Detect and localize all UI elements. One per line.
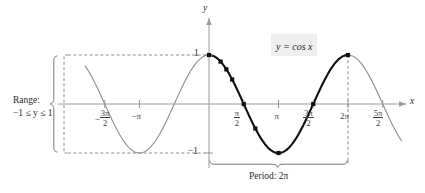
x-tick-label-5: 2π [340,112,349,121]
range-annotation: Range: −1 ≤ y ≤ 1 [13,94,53,120]
range-annotation-line1: Range: [13,94,53,107]
data-point-6 [276,151,280,155]
period-annotation: Period: 2π [249,172,288,182]
data-point-8 [346,53,350,57]
y-axis-label: y [203,4,207,14]
data-point-3 [230,77,234,81]
x-tick-numerator-6: 5π [373,109,384,119]
data-point-0 [207,53,211,57]
x-tick-numerator-0: 3π [100,109,111,119]
cosine-graph-figure: y x 1 −1 −3π2−ππ2π3π22π5π2 y = cos x Ran… [0,0,425,193]
data-point-2 [224,67,228,71]
x-axis-label: x [410,97,414,107]
y-tick-label-neg1: −1 [188,147,198,157]
x-tick-denominator-2: 2 [235,118,239,127]
equation-callout: y = cos x [271,34,317,56]
range-annotation-line2: −1 ≤ y ≤ 1 [13,107,53,120]
x-tick-denominator-0: 2 [103,118,107,127]
x-tick-denominator-4: 2 [306,118,310,127]
axes [58,18,406,168]
y-axis-arrowhead [206,18,211,25]
x-tick-label-6: 5π2 [373,110,384,129]
plot-canvas [0,0,425,193]
data-point-4 [242,102,246,106]
x-tick-label-2: π2 [234,110,240,129]
x-tick-label-3: π [275,112,280,121]
data-point-5 [253,126,257,130]
x-tick-label-0: −3π2 [95,110,111,129]
y-tick-label-1: 1 [194,49,199,59]
equation-text: y = cos x [276,41,312,52]
x-tick-label-4: 3π2 [303,110,314,129]
x-tick-numerator-4: 3π [303,109,314,119]
x-tick-numerator-2: π [234,109,240,119]
data-point-7 [311,102,315,106]
data-point-1 [218,59,222,63]
x-axis-arrowhead [399,101,406,106]
x-tick-denominator-6: 2 [376,118,380,127]
x-tick-label-1: −π [132,112,142,121]
period-brace [210,161,347,167]
